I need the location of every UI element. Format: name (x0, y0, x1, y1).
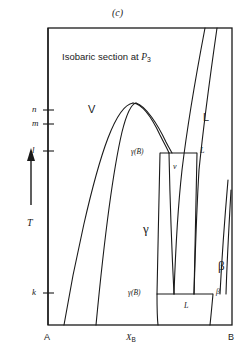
curve-beta-solidus-edge (226, 190, 231, 294)
curve-gamma-right-boundary-upper (157, 153, 160, 294)
phase-boundary-curves (64, 28, 231, 325)
upper-tie-line-left-label: γ(B) (131, 148, 144, 156)
plot-title: Isobaric section at P3 (62, 52, 151, 64)
lower-tie-line-right-label: β (216, 288, 220, 296)
plot-title-subscript: 3 (147, 56, 151, 63)
curve-vapor-dome-left-branch (64, 103, 133, 325)
lower-tie-line-below-label: L (184, 302, 188, 310)
x-axis-right-corner-label: B (228, 333, 234, 342)
y-tick-label-l: l (32, 146, 35, 155)
curve-inner-dome-right-branch (136, 103, 172, 153)
plot-frame (48, 28, 232, 325)
curve-gamma-right-boundary-lower (157, 294, 158, 325)
plot-title-prefix: Isobaric section at (62, 51, 141, 62)
region-label-vapor: V (88, 104, 95, 115)
figure-caption: (c) (112, 8, 123, 18)
x-axis-label-subscript: B (132, 336, 136, 343)
x-axis-left-corner-label: A (44, 333, 50, 342)
y-tick-label-k: k (32, 288, 36, 297)
curve-beta-left-boundary (210, 294, 213, 325)
tie-lines (157, 153, 213, 294)
t-axis-arrow (27, 148, 35, 205)
upper-tie-line-below-label: v (173, 163, 177, 171)
y-tick-label-m: m (32, 119, 39, 128)
region-label-beta-solid: β (218, 259, 225, 272)
phase-diagram-figure: (c) Isobaric section at P3 T A B XB nmlk… (0, 0, 245, 361)
x-axis-label: XB (126, 333, 136, 343)
curve-vapor-dome-right-branch (133, 103, 169, 153)
upper-tie-line-right-label: L (200, 147, 204, 155)
region-label-liquid: L (203, 112, 209, 123)
y-tick-label-n: n (32, 105, 37, 114)
curve-vapor-pocket-left-edge (169, 153, 174, 294)
lower-tie-line-left-label: γ(B) (128, 289, 141, 297)
y-axis-label: T (27, 218, 33, 228)
region-label-gamma-solid: γ (143, 222, 149, 235)
